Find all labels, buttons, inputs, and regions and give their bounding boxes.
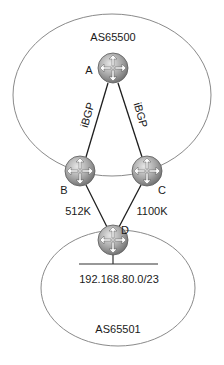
router-b[interactable]: [65, 156, 95, 186]
network-label: 192.168.80.0/23: [79, 273, 159, 285]
link-a-c-label: iBGP: [132, 101, 151, 129]
router-a-label: A: [85, 64, 93, 76]
as65501-label: AS65501: [95, 323, 140, 335]
link-c-d-label: 1100K: [137, 205, 169, 217]
router-a[interactable]: [98, 53, 128, 83]
router-icon: [132, 156, 162, 186]
as65500-label: AS65500: [90, 31, 135, 43]
router-d-label: D: [121, 224, 129, 236]
router-c[interactable]: [132, 156, 162, 186]
network-diagram: AS65500 AS65501 A B C D iBGP iBGP 512K 1…: [0, 0, 224, 365]
router-icon: [65, 156, 95, 186]
router-icon: [98, 53, 128, 83]
router-b-label: B: [60, 184, 67, 196]
link-a-b-label: iBGP: [78, 101, 97, 129]
link-b-d-label: 512K: [65, 205, 91, 217]
router-c-label: C: [158, 184, 166, 196]
